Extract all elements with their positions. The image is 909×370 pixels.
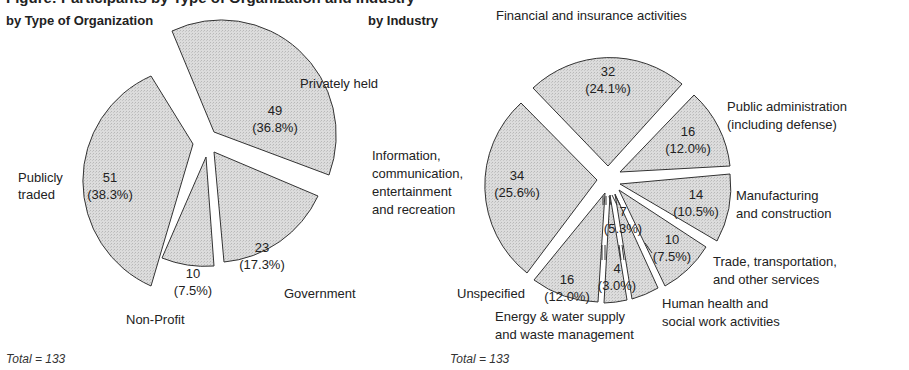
value-public: 51 — [103, 170, 117, 185]
percent-trade: (7.5%) — [653, 249, 691, 264]
label-manufacturing-1: Manufacturing — [736, 188, 818, 203]
value-np: 10 — [186, 266, 200, 281]
percent-unspecified: (12.0%) — [544, 289, 590, 304]
percent-private: (36.8%) — [252, 120, 298, 135]
label-trade-1: Trade, transportation, — [713, 254, 837, 269]
value-public-admin: 16 — [681, 124, 695, 139]
percent-public: (38.3%) — [87, 187, 133, 202]
value-unspecified: 16 — [560, 272, 574, 287]
percent-manufacturing: (10.5%) — [673, 204, 719, 219]
value-information: 34 — [510, 168, 524, 183]
right-total: Total = 133 — [450, 352, 509, 366]
slice-privately-held — [172, 20, 336, 175]
value-private: 49 — [268, 103, 282, 118]
label-info-3: entertainment — [372, 184, 452, 199]
label-energy-1: Energy & water supply — [495, 309, 626, 324]
value-health: 7 — [619, 204, 626, 219]
label-nonprofit: Non-Profit — [126, 312, 185, 327]
percent-public-admin: (12.0%) — [665, 141, 711, 156]
label-info-4: and recreation — [372, 202, 455, 217]
percent-gov: (17.3%) — [239, 257, 285, 272]
label-unspecified: Unspecified — [457, 286, 525, 301]
percent-financial: (24.1%) — [585, 81, 631, 96]
label-public-admin-1: Public administration — [727, 99, 847, 114]
percent-np: (7.5%) — [174, 283, 212, 298]
label-energy-2: and waste management — [495, 327, 634, 342]
value-gov: 23 — [255, 240, 269, 255]
percent-information: (25.6%) — [494, 185, 540, 200]
label-info-1: Information, — [372, 148, 441, 163]
label-info-2: communication, — [372, 166, 463, 181]
label-manufacturing-2: and construction — [736, 206, 831, 221]
value-manufacturing: 14 — [689, 187, 703, 202]
value-trade: 10 — [665, 232, 679, 247]
pie-charts: 49 (36.8%) 51 (38.3%) 23 (17.3%) 10 (7.5… — [0, 0, 909, 370]
label-publicly-2: traded — [18, 187, 55, 202]
value-energy: 4 — [613, 261, 620, 276]
left-total: Total = 133 — [6, 352, 65, 366]
value-financial: 32 — [601, 64, 615, 79]
label-health-1: Human health and — [662, 296, 768, 311]
label-trade-2: and other services — [713, 272, 820, 287]
left-pie — [83, 20, 336, 286]
label-government: Government — [284, 286, 356, 301]
label-publicly-1: Publicly — [18, 170, 63, 185]
label-privately-held: Privately held — [300, 76, 378, 91]
percent-health: (5.3%) — [604, 221, 642, 236]
label-public-admin-2: (including defense) — [727, 117, 837, 132]
label-health-2: social work activities — [662, 314, 780, 329]
label-financial: Financial and insurance activities — [496, 8, 687, 23]
percent-energy: (3.0%) — [598, 278, 636, 293]
